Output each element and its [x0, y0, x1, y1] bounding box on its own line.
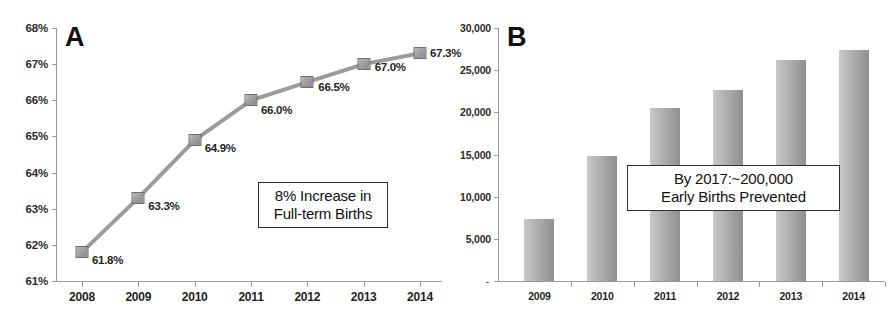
callout-line-2-b: Early Births Prevented: [636, 188, 831, 206]
callout-line-1-a: 8% Increase in: [267, 187, 379, 205]
x-tick-mark: [822, 282, 823, 287]
data-point-label: 66.5%: [318, 81, 349, 93]
data-marker: [414, 47, 427, 59]
panel-a-line-chart: A 68%67%66%65%64%63%62%61% 2008200920102…: [0, 0, 450, 315]
data-marker: [188, 134, 201, 146]
x-tick-mark: [885, 282, 886, 287]
x-tick-label: 2014: [842, 290, 865, 302]
data-marker: [76, 246, 89, 258]
x-tick-label: 2009: [528, 290, 551, 302]
x-tick-mark: [634, 282, 635, 287]
x-tick-label: 2013: [779, 290, 802, 302]
data-point-label: 66.0%: [261, 104, 292, 116]
callout-box-b: By 2017:~200,000 Early Births Prevented: [627, 165, 840, 211]
y-tick-mark: [494, 281, 499, 282]
callout-line-2-a: Full-term Births: [267, 205, 379, 223]
data-point-label: 64.9%: [205, 142, 236, 154]
figure-panel-group: A 68%67%66%65%64%63%62%61% 2008200920102…: [0, 0, 895, 315]
bar-series-b: [445, 28, 895, 281]
x-tick-label: 2010: [591, 290, 614, 302]
x-tick-label: 2011: [654, 290, 676, 302]
x-tick-mark: [571, 282, 572, 287]
data-marker: [301, 76, 314, 88]
line-series-a: [0, 0, 450, 315]
data-marker: [132, 192, 145, 204]
callout-box-a: 8% Increase in Full-term Births: [258, 182, 388, 228]
panel-b-bar-chart: B 30,00025,00020,00015,00010,0005,000- 2…: [445, 0, 895, 315]
bar: [587, 156, 617, 281]
x-tick-mark: [697, 282, 698, 287]
data-marker: [245, 94, 258, 106]
x-tick-label: 2012: [717, 290, 740, 302]
data-point-label: 61.8%: [92, 254, 123, 266]
data-marker: [357, 58, 370, 70]
callout-line-1-b: By 2017:~200,000: [636, 170, 831, 188]
bar: [524, 219, 554, 281]
data-point-label: 67.0%: [375, 61, 406, 73]
x-tick-mark: [759, 282, 760, 287]
data-point-label: 63.3%: [148, 200, 179, 212]
x-axis-line-b: [498, 281, 885, 282]
bar: [839, 50, 869, 281]
